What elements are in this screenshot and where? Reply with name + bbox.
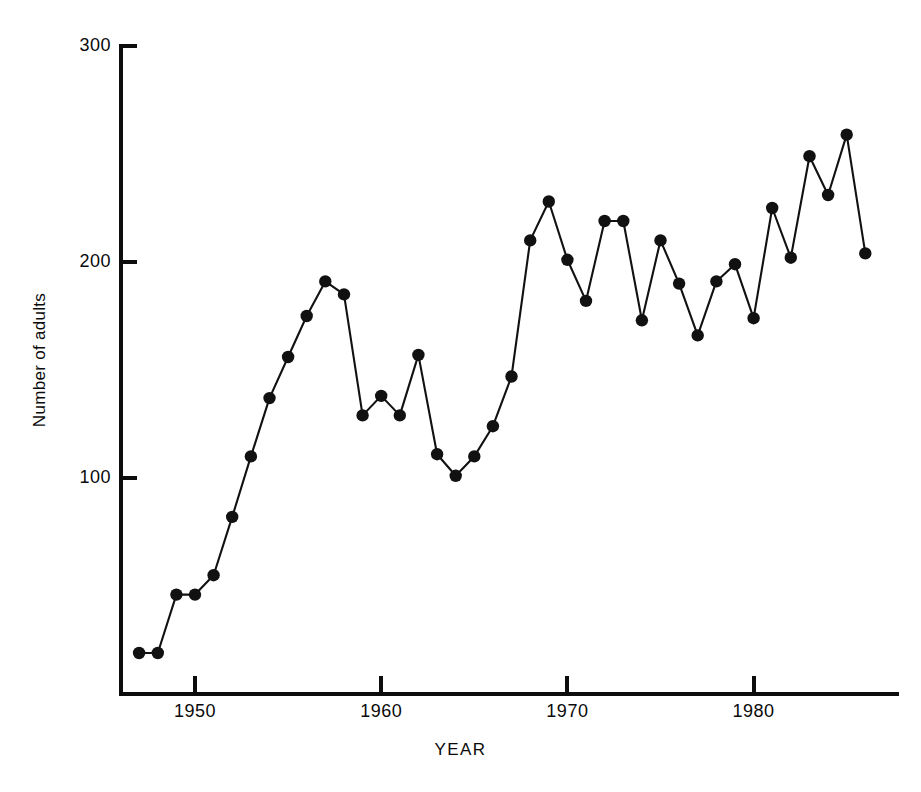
data-point xyxy=(375,390,387,402)
data-point xyxy=(841,128,853,140)
data-point xyxy=(450,470,462,482)
data-point xyxy=(468,450,480,462)
x-tick-label: 1950 xyxy=(160,702,230,720)
data-point xyxy=(245,450,257,462)
y-tick xyxy=(123,476,137,480)
data-point xyxy=(747,312,759,324)
x-tick xyxy=(193,676,197,694)
data-point xyxy=(394,409,406,421)
data-point xyxy=(692,329,704,341)
data-point xyxy=(561,254,573,266)
data-point xyxy=(505,370,517,382)
data-point xyxy=(338,288,350,300)
data-point xyxy=(431,448,443,460)
y-axis-title: Number of adults xyxy=(30,260,50,460)
data-point xyxy=(263,392,275,404)
data-point xyxy=(152,647,164,659)
data-point xyxy=(170,588,182,600)
data-point xyxy=(617,215,629,227)
chart-figure: 100200300 1950196019701980 YEAR Number o… xyxy=(0,0,921,792)
data-point xyxy=(282,351,294,363)
x-tick-label: 1980 xyxy=(719,702,789,720)
data-point xyxy=(319,275,331,287)
x-tick xyxy=(565,676,569,694)
data-point xyxy=(766,202,778,214)
data-point xyxy=(803,150,815,162)
series-markers xyxy=(133,128,872,659)
data-point xyxy=(710,275,722,287)
y-tick-label: 100 xyxy=(65,468,111,486)
data-point xyxy=(729,258,741,270)
y-tick-label: 300 xyxy=(65,36,111,54)
y-axis-line xyxy=(119,44,123,696)
data-point xyxy=(226,511,238,523)
y-tick-label: 200 xyxy=(65,252,111,270)
data-point xyxy=(822,189,834,201)
data-point xyxy=(133,647,145,659)
data-point xyxy=(412,349,424,361)
x-tick xyxy=(379,676,383,694)
data-point xyxy=(543,195,555,207)
series-line xyxy=(139,135,865,653)
data-point xyxy=(524,234,536,246)
x-tick xyxy=(752,676,756,694)
x-tick-label: 1960 xyxy=(346,702,416,720)
x-axis-title: YEAR xyxy=(0,740,921,760)
data-point xyxy=(636,314,648,326)
x-tick-label: 1970 xyxy=(532,702,602,720)
data-point xyxy=(673,277,685,289)
data-point xyxy=(487,420,499,432)
data-point xyxy=(859,247,871,259)
data-point xyxy=(356,409,368,421)
y-tick xyxy=(123,260,137,264)
x-axis-line xyxy=(119,692,899,696)
plot-area xyxy=(0,0,921,792)
y-tick xyxy=(123,44,137,48)
data-point xyxy=(301,310,313,322)
data-point xyxy=(189,588,201,600)
data-point xyxy=(207,569,219,581)
data-point xyxy=(598,215,610,227)
data-point xyxy=(580,295,592,307)
data-point xyxy=(785,252,797,264)
data-point xyxy=(654,234,666,246)
